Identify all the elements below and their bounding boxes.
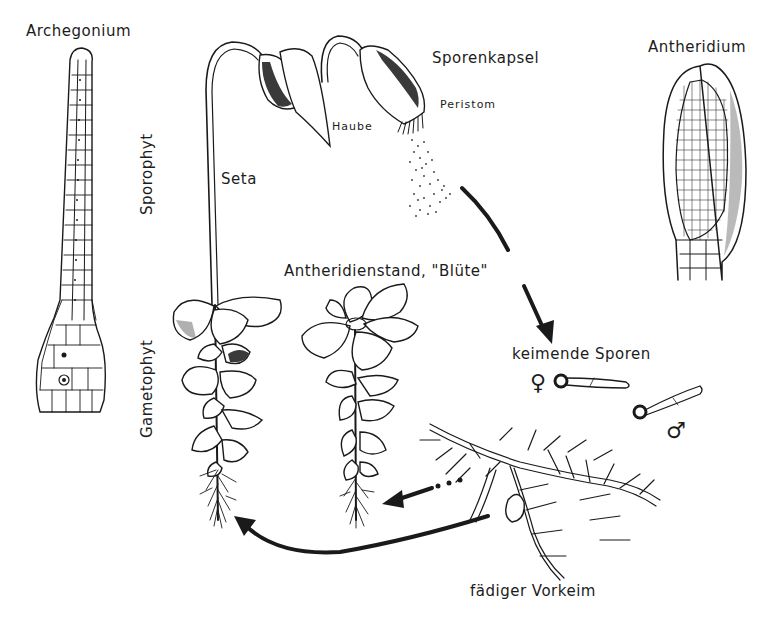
label-peristom: Peristom: [440, 98, 496, 111]
label-keimende-sporen: keimende Sporen: [512, 345, 651, 363]
label-antheridienstand: Antheridienstand, "Blüte": [284, 262, 488, 280]
label-sporophyt: Sporophyt: [138, 133, 156, 215]
protonema-drawing: [420, 424, 660, 580]
antheridium-drawing: [663, 64, 746, 280]
arrow-vorkeim-to-female-shoot: [234, 516, 488, 552]
label-sporenkapsel: Sporenkapsel: [432, 49, 539, 67]
label-antheridium: Antheridium: [648, 38, 746, 56]
diagram-illustration: [0, 0, 784, 624]
label-archegonium: Archegonium: [26, 22, 131, 40]
label-seta: Seta: [221, 170, 257, 188]
male-symbol-icon: ♂: [666, 418, 686, 443]
arrow-vorkeim-to-male-shoot: [382, 478, 463, 509]
label-gametophyt: Gametophyt: [138, 339, 156, 438]
protonema-bud: [506, 494, 525, 522]
archegonium-drawing: [36, 48, 105, 412]
moss-life-cycle-diagram: Archegonium Sporenkapsel Peristom Haube …: [0, 0, 784, 624]
spore-spray: [409, 139, 451, 217]
label-vorkeim: fädiger Vorkeim: [470, 582, 596, 600]
germinating-spores: [555, 375, 702, 418]
label-haube: Haube: [332, 120, 373, 133]
female-symbol-icon: ♀: [530, 370, 546, 395]
gametophyte-female-shoot: [173, 297, 281, 528]
